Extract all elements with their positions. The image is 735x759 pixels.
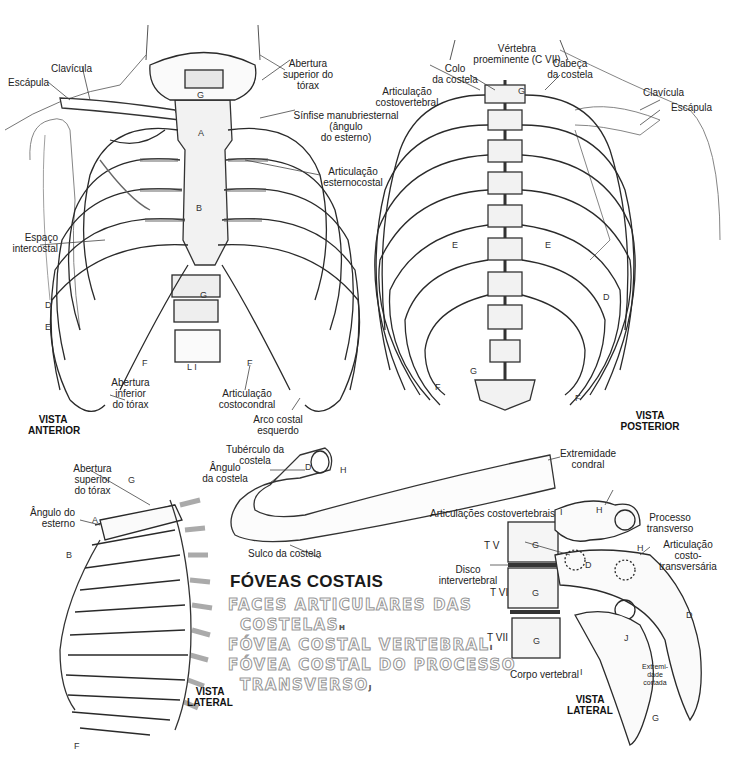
legend-item-code: J xyxy=(369,684,373,692)
label-line: Abertura xyxy=(108,377,153,388)
label-line: Articulação xyxy=(212,388,282,399)
view-label-line: VISTA xyxy=(615,410,685,421)
label-line: superior xyxy=(70,474,115,485)
letter-g: G xyxy=(128,475,135,485)
label-line: Articulação xyxy=(652,539,724,550)
letter-e: E xyxy=(45,322,51,332)
label-clavicula-anterior: Clavícula xyxy=(51,63,92,74)
label-line: da costela xyxy=(545,69,595,80)
view-label-line: POSTERIOR xyxy=(615,421,685,432)
letter-b: B xyxy=(196,203,202,213)
label-line: costo- xyxy=(652,550,724,561)
label-line: inferior xyxy=(108,388,153,399)
letter-f: F xyxy=(247,358,253,368)
legend-item-code: I xyxy=(490,644,494,652)
label-line: da costela xyxy=(200,473,250,484)
label-line: Processo xyxy=(640,512,700,523)
label-line: intervertebral xyxy=(438,575,498,586)
label-line: tórax xyxy=(278,80,338,91)
label-corpo-vertebral: Corpo vertebral xyxy=(510,669,579,680)
label-sinfise-manubriesternal: Sínfise manubriesternal (ângulo do ester… xyxy=(291,110,401,143)
label-line: transversária xyxy=(652,561,724,572)
label-espaco-intercostal: Espaço intercostal xyxy=(8,232,58,254)
letter-i: I xyxy=(560,507,563,517)
label-line: transverso xyxy=(640,523,700,534)
label-line: esquerdo xyxy=(248,425,308,436)
label-line: intercostal xyxy=(8,243,58,254)
label-line: Articulação xyxy=(318,166,388,177)
legend-item-text: FÓVEA COSTAL DO PROCESSO xyxy=(228,656,516,674)
label-angulo-esterno: Ângulo do esterno xyxy=(30,507,75,529)
label-line: dade xyxy=(640,671,670,679)
letter-d: D xyxy=(585,560,592,570)
view-label-posterior: VISTA POSTERIOR xyxy=(615,410,685,432)
letter-f: F xyxy=(435,382,441,392)
letter-h: H xyxy=(596,505,603,515)
label-articulacoes-costovertebrais: Articulações costovertebrais xyxy=(430,508,555,519)
label-clavicula-posterior: Clavícula xyxy=(643,87,684,98)
letter-f: F xyxy=(575,393,581,403)
label-abertura-superior-anterior: Abertura superior do tórax xyxy=(278,58,338,91)
view-label-line: VISTA xyxy=(565,694,615,705)
label-articulacao-costocondral: Articulação costocondral xyxy=(212,388,282,410)
label-articulacao-costovertebral-posterior: Articulação costovertebral xyxy=(372,86,442,108)
label-extremidade-condral: Extremidade condral xyxy=(558,448,618,470)
letter-j: J xyxy=(624,633,629,643)
legend-title: FÓVEAS COSTAIS xyxy=(230,572,383,592)
letter-g: G xyxy=(652,713,659,723)
letter-g: G xyxy=(470,366,477,376)
legend-item-fovea-vertebral: FÓVEA COSTAL VERTEBRALI xyxy=(228,636,494,654)
letter-f: F xyxy=(142,358,148,368)
legend-item-code: H xyxy=(339,624,346,632)
label-articulacao-costotransversaria: Articulação costo- transversária xyxy=(652,539,724,572)
label-disco-intervertebral: Disco intervertebral xyxy=(438,564,498,586)
label-line: Extremidade xyxy=(558,448,618,459)
view-label-line: LATERAL xyxy=(185,697,235,708)
letter-li: L I xyxy=(187,362,197,372)
letter-b: B xyxy=(66,550,72,560)
label-line: do esterno) xyxy=(291,132,401,143)
view-label-line: VISTA xyxy=(28,414,78,425)
label-line: superior do xyxy=(278,69,338,80)
view-label-line: ANTERIOR xyxy=(28,425,78,436)
view-label-line: VISTA xyxy=(185,686,235,697)
label-line: costocondral xyxy=(212,399,282,410)
label-line: Espaço xyxy=(8,232,58,243)
label-line: da costela xyxy=(430,74,480,85)
letter-d: D xyxy=(603,292,610,302)
letter-g: G xyxy=(518,86,525,96)
legend-item-fovea-processo: FÓVEA COSTAL DO PROCESSO xyxy=(228,656,516,674)
label-line: do tórax xyxy=(70,485,115,496)
label-cabeca-costela: Cabeça da costela xyxy=(545,58,595,80)
legend-item-text: TRANSVERSO xyxy=(240,676,369,694)
letter-g: G xyxy=(533,636,540,646)
label-line: do tórax xyxy=(108,399,153,410)
label-articulacao-esternocostal: Articulação esternocostal xyxy=(318,166,388,188)
label-line: Ângulo do xyxy=(30,507,75,518)
label-line: Abertura xyxy=(278,58,338,69)
view-label-anterior: VISTA ANTERIOR xyxy=(28,414,78,436)
legend-item-transverso: TRANSVERSOJ xyxy=(240,676,373,694)
label-escapula-posterior: Escápula xyxy=(671,102,712,113)
letter-d: D xyxy=(686,610,693,620)
label-line: Ângulo xyxy=(200,462,250,473)
label-abertura-superior-lateral: Abertura superior do tórax xyxy=(70,463,115,496)
label-abertura-inferior: Abertura inferior do tórax xyxy=(108,377,153,410)
letter-f: F xyxy=(74,741,80,751)
label-line: Sínfise manubriesternal xyxy=(291,110,401,121)
legend-item-text: FACES ARTICULARES DAS xyxy=(228,596,472,614)
letter-e: E xyxy=(545,240,551,250)
letter-e: E xyxy=(452,240,458,250)
view-label-line: LATERAL xyxy=(565,705,615,716)
legend-item-text: COSTELAS xyxy=(240,616,339,634)
label-processo-transverso: Processo transverso xyxy=(640,512,700,534)
label-line: Articulação xyxy=(372,86,442,97)
label-angulo-costela: Ângulo da costela xyxy=(200,462,250,484)
label-line: esternocostal xyxy=(318,177,388,188)
letter-g: G xyxy=(532,588,539,598)
letter-a: A xyxy=(92,515,98,525)
label-colo-costela: Colo da costela xyxy=(430,63,480,85)
legend-item-faces-articulares: FACES ARTICULARES DAS xyxy=(228,596,472,614)
letter-i: I xyxy=(580,667,583,677)
label-line: Extremi- xyxy=(640,663,670,671)
